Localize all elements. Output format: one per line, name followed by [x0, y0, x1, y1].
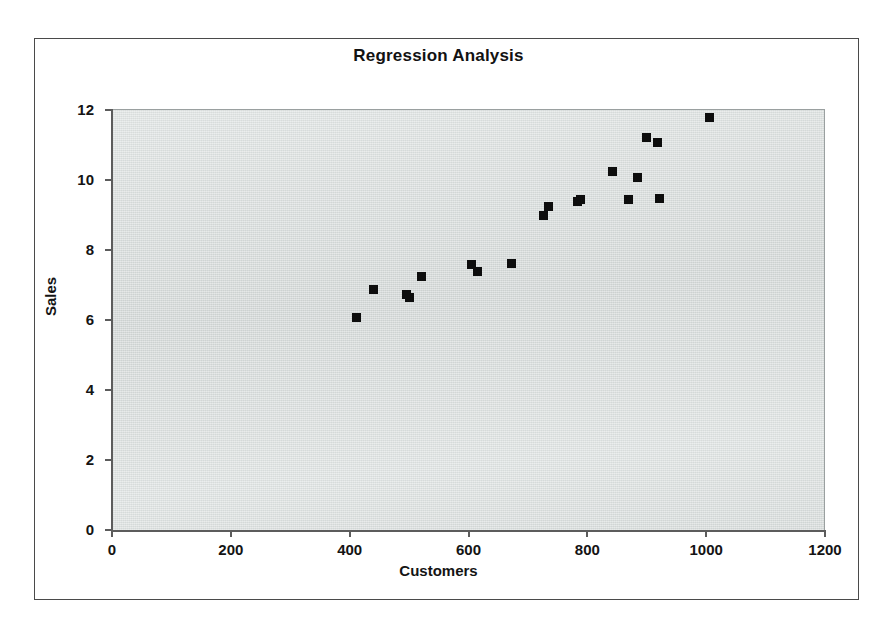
x-tick-label: 200: [191, 541, 271, 558]
x-tick-label: 400: [310, 541, 390, 558]
data-point: [653, 138, 662, 147]
data-point: [539, 211, 548, 220]
x-axis-title: Customers: [0, 562, 877, 579]
x-tick-mark: [349, 530, 351, 537]
data-point: [705, 113, 714, 122]
x-tick-mark: [230, 530, 232, 537]
y-tick-mark: [105, 319, 112, 321]
data-point: [417, 272, 426, 281]
y-tick-mark: [105, 459, 112, 461]
x-tick-mark: [111, 530, 113, 537]
data-point: [352, 313, 361, 322]
plot-right-edge: [824, 110, 825, 530]
y-tick-mark: [105, 109, 112, 111]
y-tick-mark: [105, 179, 112, 181]
x-tick-label: 1200: [785, 541, 865, 558]
x-tick-mark: [824, 530, 826, 537]
data-point: [642, 133, 651, 142]
data-point: [405, 293, 414, 302]
x-tick-mark: [586, 530, 588, 537]
x-tick-label: 800: [547, 541, 627, 558]
data-point: [507, 259, 516, 268]
data-point: [369, 285, 378, 294]
y-tick-mark: [105, 389, 112, 391]
y-tick-label: 10: [34, 171, 94, 188]
y-axis-title: Sales: [42, 267, 59, 327]
data-point: [655, 194, 664, 203]
plot-area: [112, 110, 825, 530]
x-tick-label: 0: [72, 541, 152, 558]
y-tick-label: 2: [34, 451, 94, 468]
data-point: [544, 202, 553, 211]
figure-canvas: Regression Analysis 024681012 0200400600…: [0, 0, 877, 625]
y-tick-label: 8: [34, 241, 94, 258]
x-tick-label: 1000: [666, 541, 746, 558]
data-point: [608, 167, 617, 176]
x-tick-mark: [705, 530, 707, 537]
chart-title: Regression Analysis: [0, 46, 877, 66]
plot-top-edge: [112, 109, 825, 110]
data-point: [576, 195, 585, 204]
x-tick-mark: [468, 530, 470, 537]
y-tick-label: 4: [34, 381, 94, 398]
y-tick-label: 0: [34, 521, 94, 538]
y-tick-mark: [105, 249, 112, 251]
data-point: [473, 267, 482, 276]
data-point: [633, 173, 642, 182]
y-tick-label: 12: [34, 101, 94, 118]
x-tick-label: 600: [429, 541, 509, 558]
data-point: [624, 195, 633, 204]
plot-texture-overlay: [112, 110, 825, 530]
